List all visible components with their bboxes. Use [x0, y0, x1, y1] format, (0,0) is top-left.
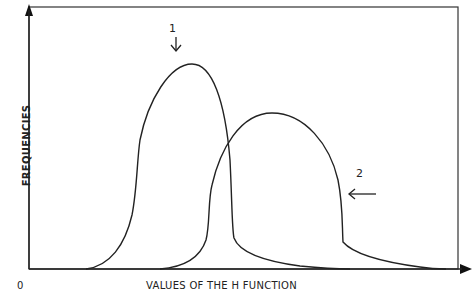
- origin-label: 0: [17, 280, 24, 291]
- x-axis-label: VALUES OF THE H FUNCTION: [146, 280, 297, 291]
- annotation-2-arrow-icon: [349, 189, 376, 199]
- y-axis-label: FREQUENCIES: [21, 105, 32, 187]
- annotation-2-label: 2: [356, 167, 363, 180]
- plot-frame: [29, 7, 458, 269]
- series-2-curve: [160, 113, 446, 269]
- annotation-1-label: 1: [169, 22, 176, 35]
- annotation-1-arrow-icon: [171, 37, 181, 51]
- chart-canvas: [0, 0, 474, 296]
